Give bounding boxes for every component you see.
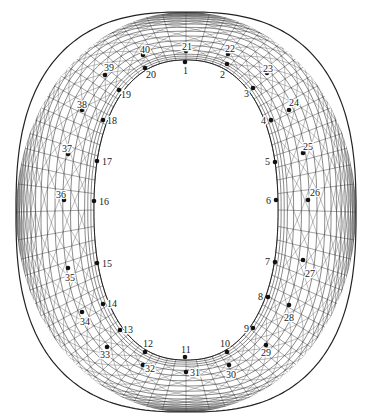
point-marker-icon: [183, 355, 188, 360]
point-label: 36: [56, 189, 66, 200]
point-label: 22: [225, 43, 235, 54]
monitoring-point-33: 33: [100, 345, 110, 360]
point-label: 5: [265, 156, 270, 167]
point-label: 14: [107, 298, 117, 309]
monitoring-point-12: 12: [143, 338, 153, 354]
monitoring-point-26: 26: [306, 187, 320, 202]
point-marker-icon: [66, 266, 71, 271]
point-marker-icon: [118, 328, 123, 333]
point-marker-icon: [101, 118, 106, 123]
monitoring-point-35: 35: [65, 266, 75, 283]
monitoring-point-18: 18: [101, 115, 117, 126]
point-label: 33: [100, 349, 110, 360]
point-marker-icon: [274, 198, 279, 203]
monitoring-point-21: 21: [182, 41, 192, 53]
point-label: 38: [77, 99, 87, 110]
point-marker-icon: [95, 159, 100, 164]
monitoring-point-29: 29: [261, 343, 271, 358]
point-label: 32: [145, 363, 155, 374]
point-marker-icon: [269, 118, 274, 123]
monitoring-point-40: 40: [140, 44, 150, 57]
point-marker-icon: [227, 363, 232, 368]
monitoring-point-24: 24: [287, 97, 299, 112]
point-label: 24: [289, 97, 299, 108]
point-marker-icon: [287, 303, 292, 308]
point-label: 8: [258, 291, 263, 302]
point-label: 37: [62, 143, 72, 154]
point-marker-icon: [95, 261, 100, 266]
monitoring-point-6: 6: [266, 195, 278, 206]
point-label: 16: [99, 196, 109, 207]
point-label: 39: [104, 62, 114, 73]
monitoring-point-23: 23: [263, 63, 273, 75]
point-marker-icon: [251, 86, 256, 91]
monitoring-point-11: 11: [181, 344, 191, 359]
point-marker-icon: [183, 60, 188, 65]
point-marker-icon: [225, 62, 230, 67]
point-label: 31: [190, 367, 200, 378]
point-label: 7: [265, 256, 270, 267]
point-marker-icon: [301, 258, 306, 263]
point-marker-icon: [143, 350, 148, 355]
point-marker-icon: [273, 160, 278, 165]
point-label: 34: [80, 316, 90, 327]
monitoring-point-32: 32: [141, 363, 155, 374]
point-marker-icon: [101, 302, 106, 307]
point-label: 12: [143, 338, 153, 349]
monitoring-point-34: 34: [80, 310, 90, 327]
point-label: 1: [183, 65, 188, 76]
point-marker-icon: [287, 108, 292, 113]
point-label: 15: [102, 258, 112, 269]
point-label: 18: [107, 115, 117, 126]
inner-ring-points: 1234567891011121314151617181920: [92, 60, 279, 360]
point-label: 6: [266, 195, 271, 206]
monitoring-point-1: 1: [183, 60, 188, 76]
point-marker-icon: [306, 198, 311, 203]
monitoring-point-10: 10: [220, 338, 230, 354]
point-label: 25: [303, 141, 313, 152]
point-marker-icon: [225, 350, 230, 355]
point-label: 29: [261, 347, 271, 358]
point-label: 35: [65, 272, 75, 283]
point-label: 28: [284, 312, 294, 323]
point-label: 9: [244, 323, 249, 334]
monitoring-point-36: 36: [56, 189, 66, 202]
monitoring-point-13: 13: [118, 324, 133, 335]
point-marker-icon: [273, 260, 278, 265]
point-label: 30: [226, 369, 236, 380]
point-label: 26: [310, 187, 320, 198]
point-marker-icon: [92, 199, 97, 204]
monitoring-point-14: 14: [101, 298, 117, 309]
point-label: 27: [305, 268, 315, 279]
point-marker-icon: [80, 310, 85, 315]
point-label: 10: [220, 338, 230, 349]
point-label: 13: [123, 324, 133, 335]
point-marker-icon: [103, 73, 108, 78]
monitoring-point-25: 25: [301, 141, 313, 155]
point-label: 17: [102, 156, 112, 167]
point-label: 4: [261, 115, 266, 126]
monitoring-point-30: 30: [226, 363, 236, 380]
point-label: 20: [146, 69, 156, 80]
monitoring-point-39: 39: [103, 62, 114, 77]
point-label: 21: [182, 41, 192, 52]
point-label: 19: [121, 89, 131, 100]
point-marker-icon: [184, 370, 189, 375]
point-label: 11: [181, 344, 191, 355]
point-label: 3: [244, 88, 249, 99]
point-label: 2: [220, 69, 225, 80]
lattice-shell-diagram: 1234567891011121314151617181920 21222324…: [0, 0, 371, 418]
point-marker-icon: [251, 326, 256, 331]
point-marker-icon: [266, 295, 271, 300]
outer-ring-points: 2122232425262728293031323334353637383940: [56, 41, 320, 380]
monitoring-point-22: 22: [225, 43, 235, 56]
point-label: 40: [140, 44, 150, 55]
point-label: 23: [263, 63, 273, 74]
